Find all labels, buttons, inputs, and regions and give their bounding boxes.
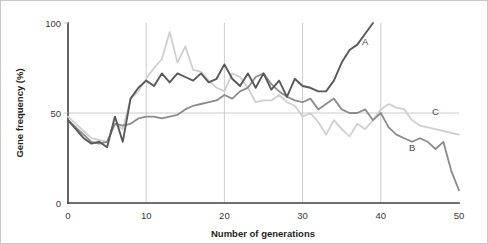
series-label-C: C	[432, 106, 439, 117]
y-tick-label-0: 0	[56, 198, 61, 209]
y-tick-label-100: 100	[45, 18, 61, 29]
y-tick-labels-group: 050100	[45, 18, 68, 209]
x-axis-title: Number of generations	[211, 228, 315, 239]
x-tick-label-50: 50	[454, 210, 465, 221]
x-tick-label-10: 10	[141, 210, 152, 221]
y-axis-title: Gene frequency (%)	[14, 68, 25, 157]
x-tick-labels-group: 01020304050	[65, 210, 464, 221]
chart-canvas: 050100 01020304050 CBA Gene frequency (%…	[1, 1, 488, 244]
x-tick-label-40: 40	[376, 210, 387, 221]
series-label-B: B	[409, 142, 415, 153]
x-tick-label-0: 0	[65, 210, 70, 221]
series-line-B	[68, 73, 459, 190]
y-tick-label-50: 50	[50, 108, 61, 119]
x-tick-label-30: 30	[297, 210, 308, 221]
chart-figure: 050100 01020304050 CBA Gene frequency (%…	[0, 0, 488, 244]
series-label-group: CBA	[362, 36, 439, 153]
data-series-group	[68, 23, 459, 190]
x-tick-label-20: 20	[219, 210, 230, 221]
series-label-A: A	[362, 36, 369, 47]
